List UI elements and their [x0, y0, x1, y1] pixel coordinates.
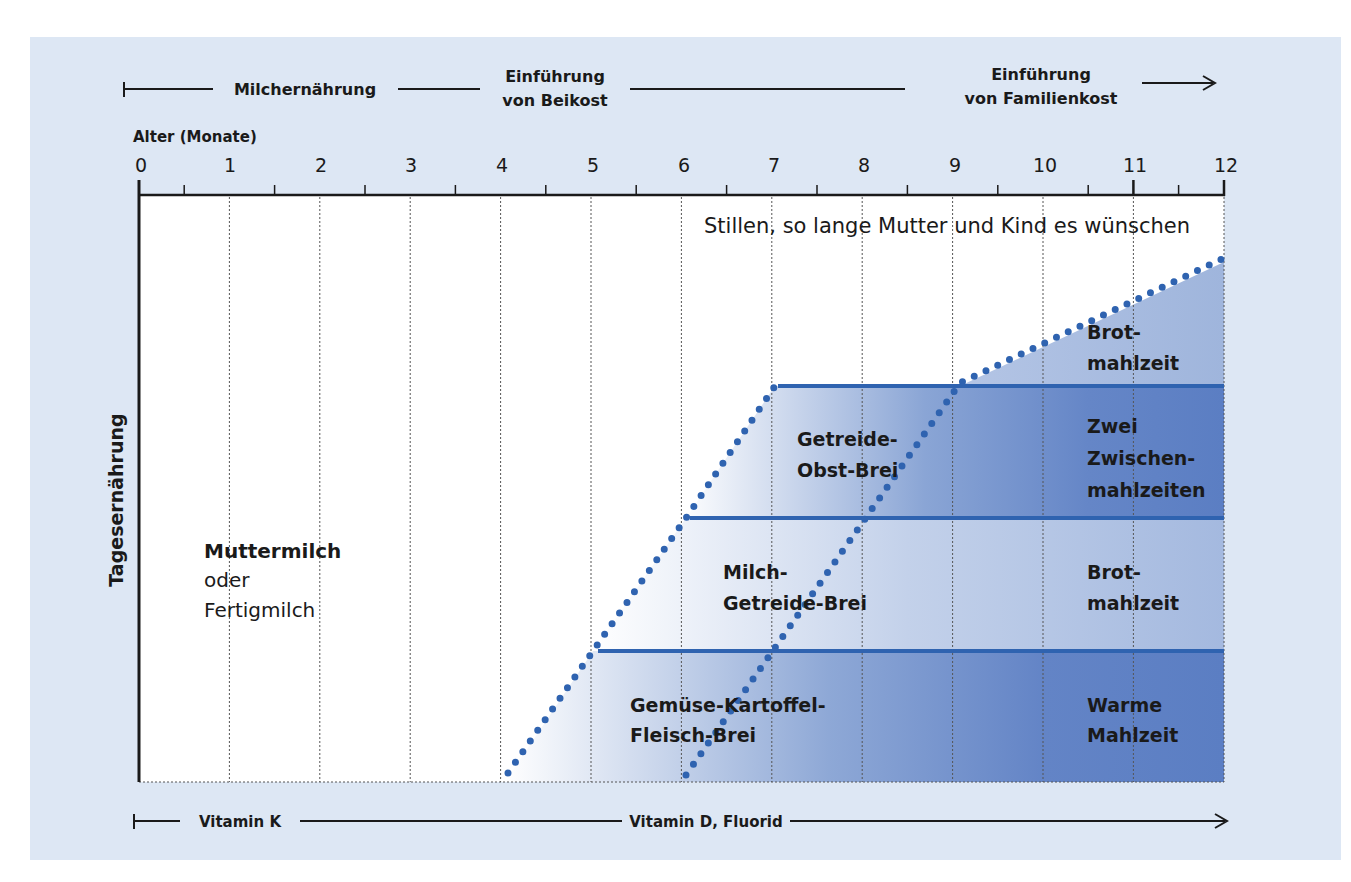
- phase-beikost-line2: von Beikost: [502, 91, 608, 110]
- band-gemuese: [505, 651, 1224, 782]
- label-oder: oder: [204, 568, 250, 592]
- band-milch-getreide: [593, 518, 1224, 651]
- feeding-plan-diagram: 0 1 2 3 4 5 6 7 8 9 10 11 12 Alter (Mona…: [0, 0, 1351, 882]
- label-brot-lower-line2: mahlzeit: [1087, 592, 1179, 614]
- tick-7: 7: [768, 154, 780, 176]
- tick-1: 1: [224, 154, 236, 176]
- tick-4: 4: [496, 154, 508, 176]
- tick-9: 9: [949, 154, 961, 176]
- x-axis-title: Alter (Monate): [133, 128, 257, 146]
- label-gemuese-line2: Fleisch-Brei: [630, 724, 756, 746]
- tick-10: 10: [1033, 154, 1057, 176]
- phase-family-line1: Einführung: [991, 65, 1091, 84]
- label-brot-upper-line1: Brot-: [1087, 321, 1141, 343]
- tick-2: 2: [315, 154, 327, 176]
- tick-11: 11: [1123, 154, 1147, 176]
- label-warme-line2: Mahlzeit: [1087, 724, 1178, 746]
- label-muttermilch: Muttermilch: [204, 539, 341, 563]
- label-gemuese-line1: Gemüse-Kartoffel-: [630, 694, 826, 716]
- label-fertigmilch: Fertigmilch: [204, 598, 315, 622]
- label-zwei-line3: mahlzeiten: [1087, 479, 1206, 501]
- phase-family-line2: von Familienkost: [965, 89, 1118, 108]
- tick-5: 5: [587, 154, 599, 176]
- vitamin-k-label: Vitamin K: [199, 813, 282, 831]
- tick-0: 0: [135, 154, 147, 176]
- phase-beikost-line1: Einführung: [505, 67, 605, 86]
- label-brot-lower-line1: Brot-: [1087, 561, 1141, 583]
- label-warme-line1: Warme: [1087, 694, 1162, 716]
- label-zwei-line2: Zwischen-: [1087, 447, 1195, 469]
- y-axis-title: Tagesernährung: [105, 413, 127, 586]
- label-zwei-line1: Zwei: [1087, 415, 1138, 437]
- label-milchgetreide-line2: Getreide-Brei: [723, 592, 867, 614]
- tick-12: 12: [1214, 154, 1238, 176]
- phase-milk: Milchernährung: [234, 80, 376, 99]
- label-milchgetreide-line1: Milch-: [723, 561, 788, 583]
- breastfeeding-note: Stillen, so lange Mutter und Kind es wün…: [704, 214, 1190, 238]
- tick-6: 6: [678, 154, 690, 176]
- vitamin-d-label: Vitamin D, Fluorid: [629, 813, 782, 831]
- label-getreideobst-line2: Obst-Brei: [797, 459, 898, 481]
- label-brot-upper-line2: mahlzeit: [1087, 352, 1179, 374]
- x-tick-labels: 0 1 2 3 4 5 6 7 8 9 10 11 12: [135, 154, 1238, 176]
- tick-8: 8: [858, 154, 870, 176]
- tick-3: 3: [405, 154, 417, 176]
- label-getreideobst-line1: Getreide-: [797, 428, 898, 450]
